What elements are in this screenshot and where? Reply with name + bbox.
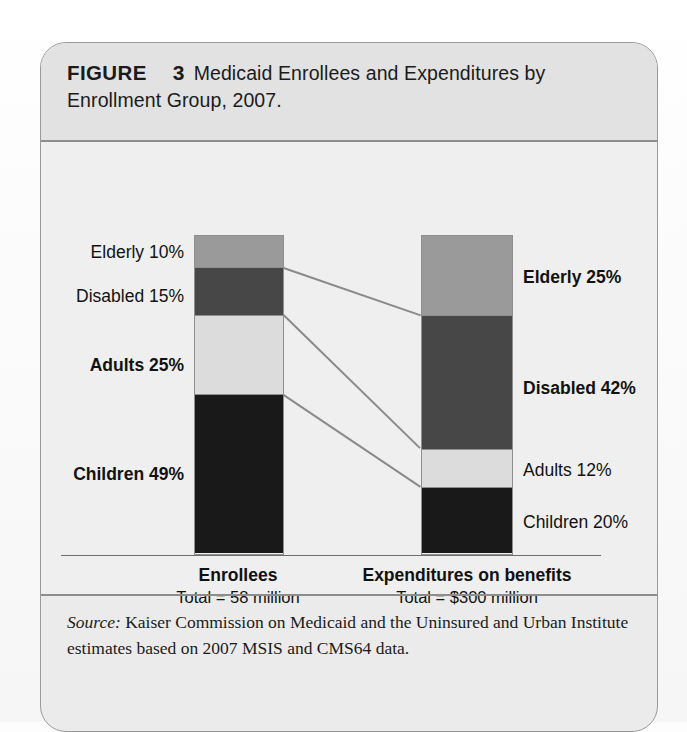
bar-segment-elderly-enrollees[interactable] [195, 236, 283, 268]
label-children-expenditures: Children 20% [523, 512, 628, 532]
label-adults-expenditures: Adults 12% [523, 460, 612, 480]
axis-caption-enrollees-total: Total = 58 million [138, 586, 338, 608]
label-elderly-enrollees: Elderly 10% [41, 242, 184, 262]
figure-title-part-1: Medicaid Enrollees and Expenditures by [194, 62, 546, 84]
figure-label: FIGURE [67, 61, 147, 84]
bar-segment-children-enrollees[interactable] [195, 394, 283, 553]
source-text: Kaiser Commission on Medicaid and the Un… [67, 612, 628, 658]
source-note: Source: Kaiser Commission on Medicaid an… [67, 609, 633, 661]
label-disabled-expenditures: Disabled 42% [523, 378, 636, 398]
connector-line-disabled-adults [283, 314, 421, 449]
axis-caption-expenditures-title: Expenditures on benefits [347, 564, 587, 586]
bar-segment-children-expenditures[interactable] [422, 487, 512, 554]
label-disabled-enrollees: Disabled 15% [41, 286, 184, 306]
axis-caption-enrollees-title: Enrollees [138, 564, 338, 586]
figure-header: FIGURE3Medicaid Enrollees and Expenditur… [41, 43, 657, 140]
bar-enrollees[interactable] [194, 235, 284, 555]
bar-segment-adults-enrollees[interactable] [195, 315, 283, 395]
connector-line-adults-children [283, 394, 421, 487]
axis-caption-expenditures-total: Total = $300 million [347, 586, 587, 608]
figure-title-line-2: Enrollment Group, 2007. [67, 87, 631, 114]
connector-line-elderly-disabled [283, 267, 421, 316]
bar-segment-elderly-expenditures[interactable] [422, 236, 512, 316]
bar-segment-disabled-enrollees[interactable] [195, 267, 283, 315]
label-adults-enrollees: Adults 25% [41, 355, 184, 375]
chart-plot-area: Elderly 10% Disabled 15% Adults 25% Chil… [41, 142, 657, 594]
label-children-enrollees: Children 49% [41, 464, 184, 484]
bar-expenditures[interactable] [421, 235, 513, 555]
chart-baseline [61, 555, 601, 557]
bar-segment-disabled-expenditures[interactable] [422, 315, 512, 449]
label-elderly-expenditures: Elderly 25% [523, 267, 621, 287]
figure-number: 3 [173, 61, 185, 84]
figure-card: FIGURE3Medicaid Enrollees and Expenditur… [40, 42, 658, 732]
source-prefix: Source: [67, 612, 121, 632]
bar-segment-adults-expenditures[interactable] [422, 449, 512, 487]
figure-title-line-1: FIGURE3Medicaid Enrollees and Expenditur… [67, 59, 631, 87]
axis-caption-enrollees: Enrollees Total = 58 million [138, 564, 338, 608]
axis-caption-expenditures: Expenditures on benefits Total = $300 mi… [347, 564, 587, 608]
source-divider [41, 594, 657, 596]
